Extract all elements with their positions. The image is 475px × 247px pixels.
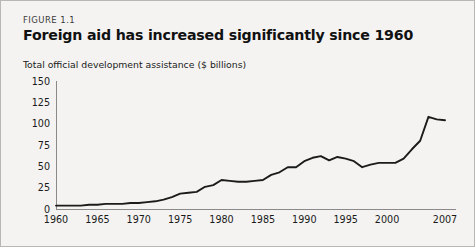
y-axis-tick-label: 150 [32,76,50,87]
x-axis-tick-label: 1990 [292,214,316,225]
y-axis-tick-label: 125 [32,97,50,108]
y-axis-tick-label: 0 [44,204,50,215]
data-series-line [56,117,445,206]
x-axis-tick-label: 2000 [375,214,399,225]
y-axis-tick-labels: 0255075100125150 [32,76,50,215]
y-axis-tick-label: 25 [38,182,50,193]
line-chart-svg: 0255075100125150 19601965197019751980198… [1,1,475,247]
x-axis-tick-label: 1975 [168,214,192,225]
figure-card: FIGURE 1.1 Foreign aid has increased sig… [0,0,475,247]
x-axis-tick-label: 1985 [251,214,275,225]
y-axis-tick-label: 50 [38,161,50,172]
x-axis-tick-label: 2007 [433,214,457,225]
x-axis-tick-label: 1980 [209,214,233,225]
x-axis-tick-label: 1970 [127,214,151,225]
x-axis-tick-label: 1965 [85,214,109,225]
x-axis-tick-label: 1960 [44,214,68,225]
x-axis-tick-label: 1995 [333,214,357,225]
y-axis-tick-label: 100 [32,118,50,129]
y-axis-tick-label: 75 [38,140,50,151]
x-axis-tick-labels: 1960196519701975198019851990199520002007 [44,214,457,225]
chart-plot-area: 0255075100125150 19601965197019751980198… [1,1,475,247]
